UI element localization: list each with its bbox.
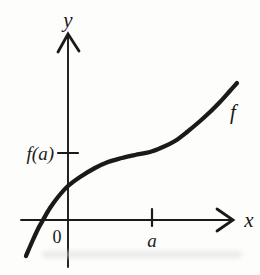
y-axis-label: y xyxy=(61,8,73,32)
function-graph-figure: y x f(a) 0 a f xyxy=(0,0,260,275)
a-label: a xyxy=(147,230,157,251)
graph-canvas: y x f(a) 0 a f xyxy=(0,0,260,275)
curve-label: f xyxy=(230,100,239,124)
f-of-a-label: f(a) xyxy=(27,143,54,165)
origin-label: 0 xyxy=(53,227,62,247)
x-axis-label: x xyxy=(243,208,254,232)
